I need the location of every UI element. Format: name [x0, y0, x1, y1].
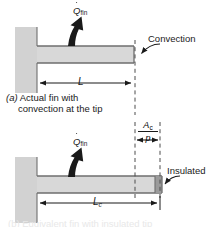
fin-body-b: [37, 176, 162, 193]
convection-leader-line: [142, 44, 161, 54]
dimension-label-Lc: Lc: [93, 196, 102, 209]
overdot-icon-a: [76, 2, 78, 4]
fin-body-a: [37, 46, 134, 63]
fraction-denominator: p: [137, 133, 159, 143]
insulated-tip-block: [155, 176, 162, 193]
panel-a-caption: (a) Actual fin with convection at the ti…: [6, 93, 103, 115]
fin-diagram-figure: Qfin Convection L (a) Actual fin with co…: [0, 0, 212, 227]
convection-label: Convection: [148, 34, 196, 45]
heat-flow-arrow-a: [68, 17, 83, 47]
dimension-label-L: L: [78, 76, 84, 88]
caption-id-a: (a): [6, 92, 18, 103]
q-subscript-b: fin: [80, 140, 87, 147]
q-symbol-a: Q: [73, 6, 80, 17]
overdot-icon-b: [76, 133, 78, 135]
q-subscript-a: fin: [80, 9, 87, 16]
extension-length-fraction: Ac p: [137, 120, 159, 143]
heat-flow-label-b: Qfin: [73, 137, 88, 148]
wall-block-b: [15, 157, 37, 223]
panel-b-caption-cutoff: (b) Equivalent fin with insulated tip: [8, 219, 152, 227]
q-symbol-b: Q: [73, 137, 80, 148]
wall-block-a: [15, 27, 37, 93]
insulated-label: Insulated: [167, 166, 206, 177]
fraction-numerator: Ac: [137, 120, 159, 131]
caption-line1-a: Actual fin with: [20, 92, 79, 103]
heat-flow-arrow-b: [68, 148, 83, 178]
caption-line2-a: convection at the tip: [18, 104, 103, 115]
heat-flow-label-a: Qfin: [73, 6, 88, 17]
insulated-leader-line: [165, 176, 180, 184]
